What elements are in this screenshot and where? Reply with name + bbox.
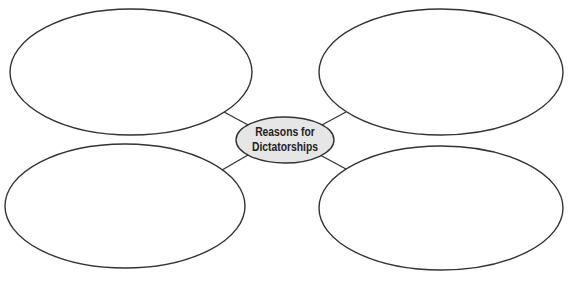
bubble-bottom-left-text[interactable] — [25, 164, 225, 248]
bubble-top-right-text[interactable] — [341, 30, 541, 114]
center-label-line2: Dictatorships — [252, 140, 318, 155]
bubble-bottom-right-text[interactable] — [341, 166, 541, 250]
center-label: Reasons for Dictatorships — [243, 117, 327, 163]
bubble-top-left-text[interactable] — [30, 30, 230, 114]
concept-web-diagram: Reasons for Dictatorships — [0, 0, 570, 281]
center-label-line1: Reasons for — [255, 125, 315, 140]
